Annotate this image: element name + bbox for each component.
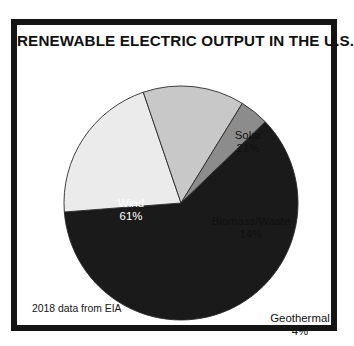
pie-label-biomass-waste-name: Biomass/Waste [196, 215, 306, 228]
pie-label-wind-name: Wind [96, 197, 166, 210]
pie-chart-svg [17, 25, 331, 325]
pie-chart: Solar 21% Biomass/Waste 14% Wind 61% Geo… [17, 25, 331, 325]
pie-label-solar: Solar 21% [213, 129, 283, 155]
pie-label-wind-value: 61% [96, 210, 166, 223]
pie-label-solar-name: Solar [213, 129, 283, 142]
chart-frame: RENEWABLE ELECTRIC OUTPUT IN THE U.S. So… [11, 19, 337, 331]
pie-label-solar-value: 21% [213, 142, 283, 155]
source-note: 2018 data from EIA [32, 303, 122, 314]
pie-label-geothermal: Geothermal 4% [250, 312, 350, 338]
chart-panel: RENEWABLE ELECTRIC OUTPUT IN THE U.S. So… [17, 25, 331, 325]
pie-label-wind: Wind 61% [96, 197, 166, 223]
pie-label-geothermal-value: 4% [250, 325, 350, 338]
pie-label-biomass-waste: Biomass/Waste 14% [196, 215, 306, 241]
pie-label-geothermal-name: Geothermal [250, 312, 350, 325]
pie-label-biomass-waste-value: 14% [196, 228, 306, 241]
